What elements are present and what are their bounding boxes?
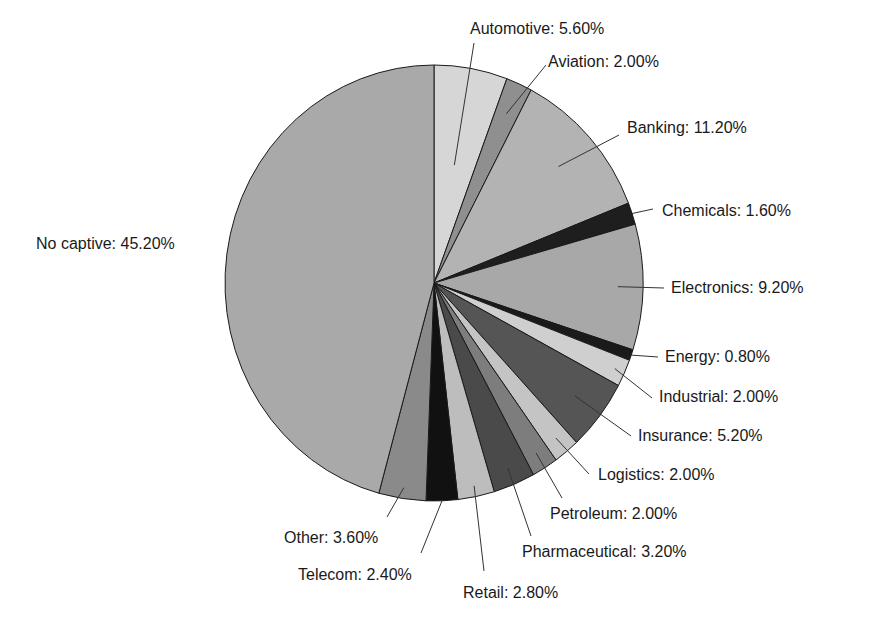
- slice-label-no-captive: No captive: 45.20%: [36, 235, 175, 252]
- slice-label-telecom: Telecom: 2.40%: [298, 566, 412, 583]
- leader-line-energy: [631, 355, 658, 357]
- slice-label-insurance: Insurance: 5.20%: [638, 427, 763, 444]
- slice-label-other: Other: 3.60%: [284, 529, 378, 546]
- pie-slices: [225, 65, 643, 501]
- slice-label-electronics: Electronics: 9.20%: [671, 279, 804, 296]
- slice-label-pharmaceutical: Pharmaceutical: 3.20%: [522, 543, 687, 560]
- leader-line-telecom: [421, 501, 442, 553]
- slice-label-energy: Energy: 0.80%: [665, 348, 770, 365]
- leader-line-industrial: [615, 369, 652, 398]
- pie-chart: Automotive: 5.60%Aviation: 2.00%Banking:…: [0, 0, 872, 634]
- leader-line-chemicals: [632, 209, 653, 214]
- slice-label-aviation: Aviation: 2.00%: [548, 53, 659, 70]
- slice-label-retail: Retail: 2.80%: [463, 584, 558, 601]
- slice-label-banking: Banking: 11.20%: [627, 119, 747, 136]
- slice-label-industrial: Industrial: 2.00%: [659, 388, 778, 405]
- slice-label-chemicals: Chemicals: 1.60%: [662, 202, 791, 219]
- slice-label-logistics: Logistics: 2.00%: [598, 466, 715, 483]
- leader-line-retail: [474, 486, 484, 571]
- slice-label-automotive: Automotive: 5.60%: [470, 20, 604, 37]
- slice-label-petroleum: Petroleum: 2.00%: [550, 505, 677, 522]
